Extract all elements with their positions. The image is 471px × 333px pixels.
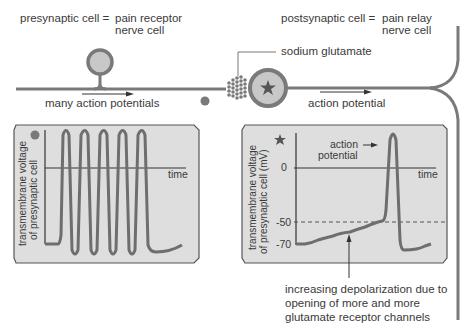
presynaptic-voltage-chart: time transmembrane voltage of presynapti… [14, 125, 199, 263]
presynaptic-cell-body [88, 50, 112, 74]
y-tick-minus-70: -70 [276, 238, 291, 250]
y-tick-0: 0 [281, 161, 287, 173]
y-axis-label-line2: of presynaptic cell [28, 160, 39, 240]
sodium-glutamate-cluster-icon [227, 75, 247, 100]
time-axis-label: time [418, 168, 438, 180]
postsynaptic-voltage-chart: 0 -50 -70 time action potential transmem… [242, 125, 447, 263]
caption-line3: glutamate receptor channels [285, 311, 430, 324]
presynaptic-marker-dot-icon [31, 131, 40, 140]
y-axis-label-line1: transmembrane voltage [247, 145, 258, 250]
caption-line1: increasing depolarization due to [285, 283, 447, 296]
y-axis-label-line2: of presynaptic cell (mV) [258, 150, 269, 254]
action-potential-annotation-line2: potential [318, 149, 358, 161]
presynaptic-axon [16, 50, 226, 89]
y-axis-label-line1: transmembrane voltage [17, 141, 28, 246]
many-action-potentials-arrow [82, 92, 134, 97]
y-tick-minus-50: -50 [276, 216, 291, 228]
glutamate-dot-icon [201, 97, 210, 106]
time-axis-label: time [168, 168, 188, 180]
caption-line2: opening of more and more [285, 297, 420, 310]
action-potential-arrow [320, 90, 372, 95]
